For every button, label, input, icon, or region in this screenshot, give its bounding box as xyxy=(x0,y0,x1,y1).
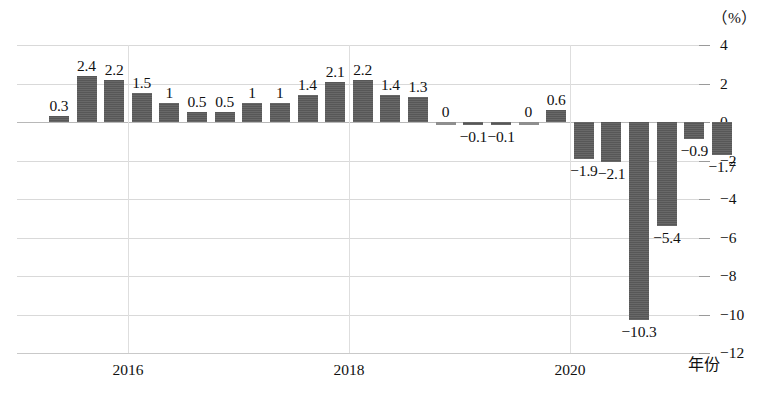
gridline-x-2020 xyxy=(570,45,571,353)
bar xyxy=(77,76,97,122)
x-tick-label: 2016 xyxy=(113,362,144,378)
y-tick--12 xyxy=(699,353,710,354)
bar xyxy=(187,112,207,122)
bar-value-label: 2.4 xyxy=(77,58,96,74)
bar xyxy=(408,97,428,122)
bar xyxy=(463,122,483,125)
x-tick-label: 2018 xyxy=(334,362,365,378)
y-tick-label: 4 xyxy=(720,37,728,53)
y-tick--4 xyxy=(699,199,710,200)
gridline-y--4 xyxy=(17,199,710,200)
gridline-y--10 xyxy=(17,315,710,316)
bar xyxy=(574,122,594,159)
y-tick-label: −10 xyxy=(720,307,744,323)
bar-value-label: 0 xyxy=(525,104,533,120)
bar xyxy=(325,82,345,122)
bar-value-label: −1.7 xyxy=(708,159,735,175)
bar-value-label: 0 xyxy=(442,104,450,120)
y-tick-label: 2 xyxy=(720,76,728,92)
bar-value-label: 0.6 xyxy=(547,92,566,108)
gridline-y-4 xyxy=(17,45,710,46)
bar-value-label: 0.5 xyxy=(188,94,207,110)
bar-value-label: 1.5 xyxy=(132,75,151,91)
bar xyxy=(380,95,400,122)
gridline-y--6 xyxy=(17,238,710,239)
bar xyxy=(49,116,69,122)
bar xyxy=(104,80,124,122)
bar xyxy=(657,122,677,226)
bar-value-label: 0.5 xyxy=(215,94,234,110)
bar-value-label: 2.1 xyxy=(326,64,345,80)
bar-value-label: 1 xyxy=(248,85,256,101)
gridline-y--8 xyxy=(17,276,710,277)
gridline-y--12 xyxy=(17,353,710,354)
x-axis-title: 年份 xyxy=(688,357,720,373)
bar-value-label: −5.4 xyxy=(653,230,680,246)
y-tick-label: −6 xyxy=(720,230,737,246)
bar-value-label: 1 xyxy=(165,85,173,101)
bar xyxy=(159,103,179,122)
bar-value-label: 1.4 xyxy=(381,77,400,93)
bar xyxy=(712,122,732,155)
bar-value-label: −2.1 xyxy=(598,166,625,182)
bar-value-label: 2.2 xyxy=(353,62,372,78)
bar-value-label: −0.1 xyxy=(487,129,514,145)
bar xyxy=(270,103,290,122)
x-tick-label: 2020 xyxy=(555,362,586,378)
bar xyxy=(629,122,649,320)
y-tick-2 xyxy=(699,84,710,85)
bar xyxy=(491,122,511,125)
y-tick-label: −12 xyxy=(720,345,744,361)
bar xyxy=(353,80,373,122)
bar xyxy=(298,95,318,122)
bar-value-label: −1.9 xyxy=(570,163,597,179)
bar-value-label: 1.3 xyxy=(409,79,428,95)
bar-chart: （%） 420−2−4−6−8−10−12 201620182020 年份 0.… xyxy=(0,0,775,403)
bar xyxy=(546,110,566,122)
bar-value-label: −0.1 xyxy=(460,129,487,145)
bar-value-label: 1 xyxy=(276,85,284,101)
bar-value-label: 0.3 xyxy=(49,98,68,114)
bar xyxy=(684,122,704,139)
y-tick--8 xyxy=(699,276,710,277)
y-tick-label: −8 xyxy=(720,268,737,284)
plot-area: 0.32.42.21.510.50.5111.42.12.21.41.30−0.… xyxy=(17,45,710,353)
bar-value-label: −10.3 xyxy=(622,324,657,340)
bar xyxy=(601,122,621,162)
bar xyxy=(242,103,262,122)
bar xyxy=(132,93,152,122)
gridline-x-2018 xyxy=(349,45,350,353)
bar xyxy=(215,112,235,122)
bar-value-label: −0.9 xyxy=(681,143,708,159)
gridline-x-2016 xyxy=(128,45,129,353)
bar xyxy=(519,122,539,125)
y-tick--6 xyxy=(699,238,710,239)
bar xyxy=(436,122,456,125)
y-tick--10 xyxy=(699,315,710,316)
axis-unit-label: （%） xyxy=(712,10,757,26)
y-tick-4 xyxy=(699,45,710,46)
y-tick-label: −4 xyxy=(720,191,737,207)
bar-value-label: 2.2 xyxy=(105,62,124,78)
bar-value-label: 1.4 xyxy=(298,77,317,93)
